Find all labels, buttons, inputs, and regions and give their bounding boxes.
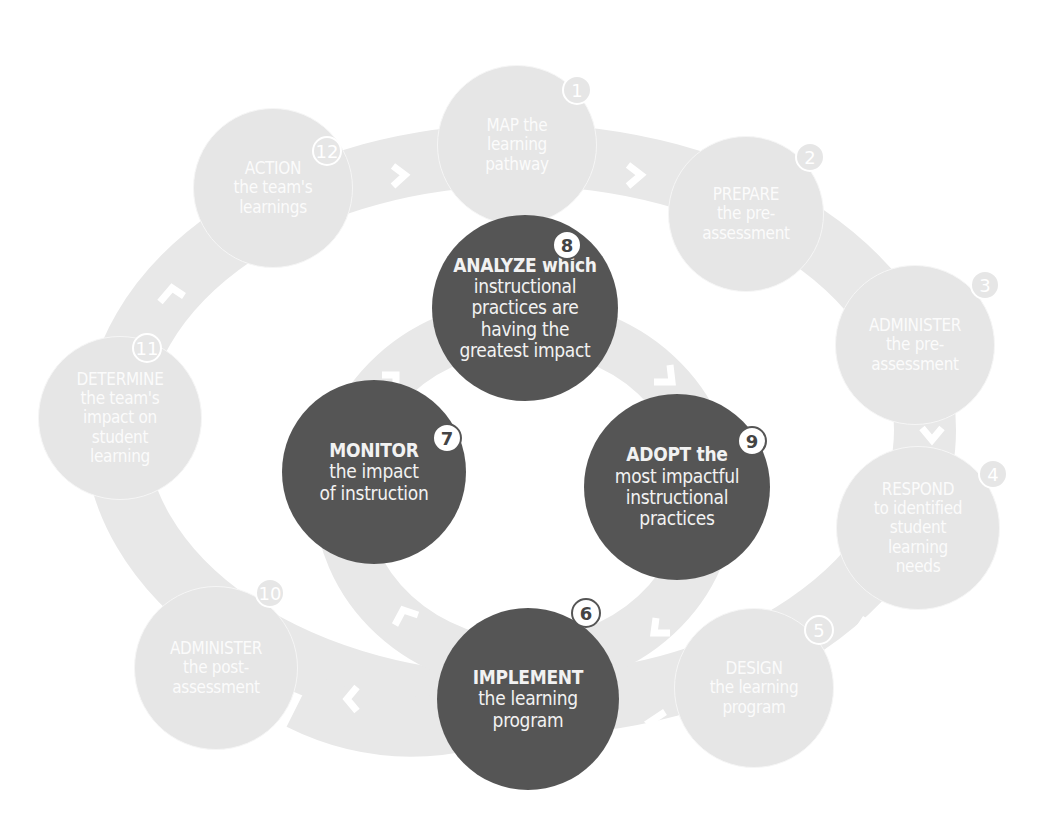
step-label: ADMINISTER the pre- assessment [861, 316, 969, 373]
step-8-analyze: ANALYZE which instructional practices ar… [432, 215, 618, 401]
step-label: ADMINISTER the post- assessment [162, 639, 270, 696]
step-7-monitor: MONITOR the impact of instruction [282, 380, 466, 564]
step-label: ANALYZE which instructional practices ar… [445, 255, 604, 361]
step-11-determine: DETERMINE the team's impact on student l… [38, 336, 202, 500]
step-label: DETERMINE the team's impact on student l… [68, 370, 171, 465]
chevron-icon [820, 310, 833, 332]
step-number-badge: 12 [312, 136, 342, 166]
learning-cycle-diagram: MAP the learning pathway 1 PREPARE the p… [0, 0, 1054, 835]
step-10-administer-post: ADMINISTER the post- assessment [134, 586, 298, 750]
step-12-action: ACTION the team's learnings [193, 108, 353, 268]
step-number-badge: 11 [132, 333, 162, 363]
step-label: ADOPT the most impactful instructional p… [607, 444, 747, 529]
step-label: IMPLEMENT the learning program [465, 667, 591, 731]
step-number-badge: 10 [255, 578, 285, 608]
step-number-badge: 8 [552, 230, 582, 260]
step-4-respond: RESPOND to identified student learning n… [836, 446, 1000, 610]
step-number-badge: 5 [804, 615, 834, 645]
step-label: ACTION the team's learnings [226, 159, 321, 216]
step-label: DESIGN the learning program [702, 659, 807, 716]
step-number-badge: 6 [571, 598, 601, 628]
step-number-badge: 7 [432, 423, 462, 453]
step-number-badge: 3 [970, 270, 1000, 300]
step-label: PREPARE the pre- assessment [694, 185, 798, 242]
step-label: MONITOR the impact of instruction [312, 440, 437, 504]
step-label: RESPOND to identified student learning n… [866, 480, 970, 575]
step-number-badge: 2 [795, 142, 825, 172]
step-9-adopt: ADOPT the most impactful instructional p… [584, 394, 770, 580]
step-number-badge: 9 [737, 426, 767, 456]
step-number-badge: 4 [978, 459, 1008, 489]
step-6-implement: IMPLEMENT the learning program [437, 608, 619, 790]
step-number-badge: 1 [562, 75, 592, 105]
step-label: MAP the learning pathway [477, 116, 557, 173]
